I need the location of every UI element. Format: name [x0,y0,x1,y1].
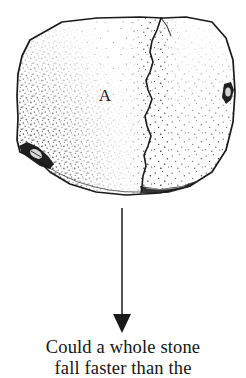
caption: Could a whole stone fall faster than the [0,337,246,378]
caption-line-2: fall faster than the [0,358,246,378]
caption-line-1: Could a whole stone [0,337,246,358]
fragment-label-a: A [99,86,112,105]
